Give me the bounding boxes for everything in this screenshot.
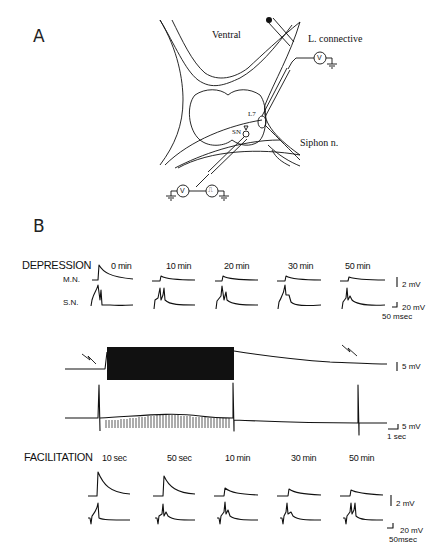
facilitation-traces xyxy=(0,0,447,559)
